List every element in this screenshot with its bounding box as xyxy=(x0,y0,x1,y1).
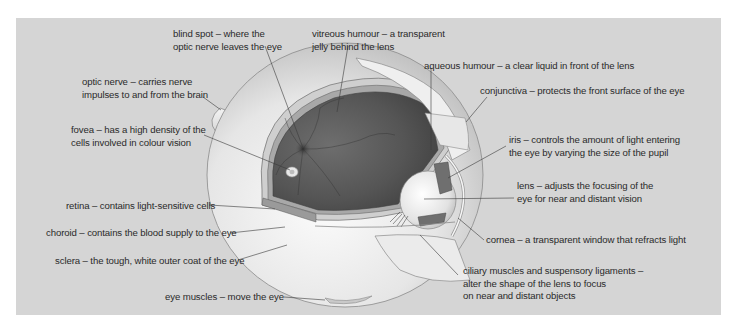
label-line: eye muscles – move the eye xyxy=(165,291,284,304)
label-line: vitreous humour – a transparent xyxy=(312,28,445,41)
label-optic-nerve: optic nerve – carries nerve impulses to … xyxy=(82,76,208,101)
label-retina: retina – contains light-sensitive cells xyxy=(66,200,215,213)
label-line: iris – controls the amount of light ente… xyxy=(509,134,680,147)
label-sclera: sclera – the tough, white outer coat of … xyxy=(55,255,244,268)
label-cornea: cornea – a transparent window that refra… xyxy=(486,234,686,247)
label-choroid: choroid – contains the blood supply to t… xyxy=(46,227,237,240)
label-lens: lens – adjusts the focusing of the eye f… xyxy=(517,180,653,205)
label-line: fovea – has a high density of the xyxy=(71,124,206,137)
label-line: jelly behind the lens xyxy=(312,41,445,54)
label-line: impulses to and from the brain xyxy=(82,89,208,102)
label-line: on near and distant objects xyxy=(463,290,643,303)
label-line: sclera – the tough, white outer coat of … xyxy=(55,255,244,268)
label-fovea: fovea – has a high density of the cells … xyxy=(71,124,206,149)
label-line: lens – adjusts the focusing of the xyxy=(517,180,653,193)
blind-spot-marker xyxy=(295,141,311,157)
label-line: eye for near and distant vision xyxy=(517,193,653,206)
label-eye-muscles: eye muscles – move the eye xyxy=(165,291,284,304)
label-line: cornea – a transparent window that refra… xyxy=(486,234,686,247)
label-line: ciliary muscles and suspensory ligaments… xyxy=(463,265,643,278)
label-line: optic nerve leaves the eye xyxy=(173,41,282,54)
label-vitreous-humour: vitreous humour – a transparent jelly be… xyxy=(312,28,445,53)
label-line: blind spot – where the xyxy=(173,28,282,41)
label-ciliary-muscles: ciliary muscles and suspensory ligaments… xyxy=(463,265,643,303)
label-line: choroid – contains the blood supply to t… xyxy=(46,227,237,240)
label-line: conjunctiva – protects the front surface… xyxy=(480,85,684,98)
label-line: retina – contains light-sensitive cells xyxy=(66,200,215,213)
label-aqueous-humour: aqueous humour – a clear liquid in front… xyxy=(424,60,634,73)
label-conjunctiva: conjunctiva – protects the front surface… xyxy=(480,85,684,98)
label-line: cells involved in colour vision xyxy=(71,137,206,150)
label-iris: iris – controls the amount of light ente… xyxy=(509,134,680,159)
label-line: optic nerve – carries nerve xyxy=(82,76,208,89)
label-blind-spot: blind spot – where the optic nerve leave… xyxy=(173,28,282,53)
label-line: the eye by varying the size of the pupil xyxy=(509,147,680,160)
label-line: alter the shape of the lens to focus xyxy=(463,278,643,291)
label-line: aqueous humour – a clear liquid in front… xyxy=(424,60,634,73)
